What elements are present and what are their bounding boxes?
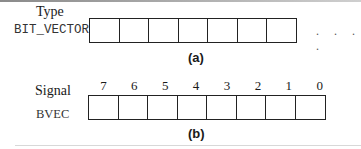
continuation-dots: . . . .: [316, 24, 361, 54]
caption-b: (b): [188, 126, 205, 141]
bit-cell: [236, 95, 267, 120]
bit-index: 6: [119, 78, 150, 94]
vector-cell: [207, 18, 238, 43]
bit-index: 5: [150, 78, 181, 94]
bottom-border: [15, 145, 361, 146]
bit-cell: [88, 95, 119, 120]
vector-cell: [237, 18, 268, 43]
vector-cell: [89, 18, 120, 43]
bit-cell: [265, 95, 296, 120]
vector-cell: [119, 18, 150, 43]
bit-index: 2: [242, 78, 273, 94]
vector-cell: [148, 18, 179, 43]
bit-vector-cells: [89, 18, 297, 43]
caption-a: (a): [188, 50, 204, 65]
bit-index: 1: [273, 78, 304, 94]
vector-cell: [178, 18, 209, 43]
vector-cell: [266, 18, 297, 43]
top-border: [0, 0, 361, 2]
bit-index: 0: [304, 78, 335, 94]
bit-index-labels: 7 6 5 4 3 2 1 0: [88, 78, 335, 94]
bvec-cells: [88, 95, 326, 120]
bit-cell: [206, 95, 237, 120]
bit-index: 4: [181, 78, 212, 94]
signal-heading: Signal: [35, 83, 71, 99]
bit-cell: [177, 95, 208, 120]
bit-vector-type-name: BIT_VECTOR: [14, 23, 89, 37]
bit-index: 3: [212, 78, 243, 94]
bit-cell: [147, 95, 178, 120]
bit-cell: [295, 95, 326, 120]
type-heading: Type: [36, 4, 64, 20]
bvec-signal-name: BVEC: [36, 107, 69, 122]
bit-cell: [118, 95, 149, 120]
bit-index: 7: [88, 78, 119, 94]
